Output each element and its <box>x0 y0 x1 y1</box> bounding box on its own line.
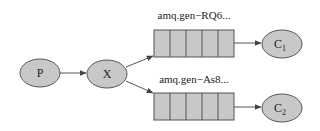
queue-2: amq.gen−As8... <box>154 73 234 120</box>
producer-label: P <box>37 66 44 80</box>
queue-1-label: amq.gen−RQ6... <box>158 9 231 21</box>
edge-x-to-queue2 <box>126 81 153 93</box>
edge-x-to-queue1 <box>126 56 153 67</box>
producer-node: P <box>20 59 60 87</box>
fanout-diagram: P X amq.gen−RQ6... amq.gen−As8... C1 C2 <box>0 0 320 131</box>
exchange-node: X <box>87 60 127 88</box>
exchange-label: X <box>103 67 112 81</box>
queue-1: amq.gen−RQ6... <box>154 9 234 57</box>
consumer-1-node: C1 <box>262 30 302 58</box>
queue-2-label: amq.gen−As8... <box>159 73 229 85</box>
consumer-2-node: C2 <box>262 94 302 122</box>
